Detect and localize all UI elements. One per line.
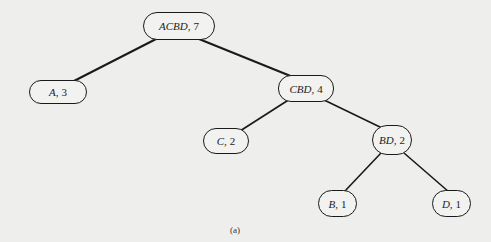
tree-node-d: D, 1 <box>432 190 471 217</box>
node-symbols: C <box>217 135 224 147</box>
figure-caption: (a) <box>230 225 240 235</box>
node-symbols: B <box>329 198 336 210</box>
edge-cbd-bd <box>322 99 382 128</box>
tree-node-cbd: CBD, 4 <box>278 75 334 102</box>
tree-node-bd: BD, 2 <box>372 125 412 155</box>
node-weight: 4 <box>317 83 323 95</box>
node-symbols: CBD <box>289 83 311 95</box>
node-weight: 1 <box>456 198 462 210</box>
node-separator: , <box>335 198 338 210</box>
tree-node-root: ACBD, 7 <box>143 12 215 40</box>
node-symbols: A <box>49 86 56 98</box>
tree-node-a: A, 3 <box>29 80 87 104</box>
edge-root-a <box>72 37 160 82</box>
node-separator: , <box>450 198 453 210</box>
edge-root-cbd <box>194 37 293 77</box>
node-separator: , <box>56 86 59 98</box>
tree-node-b: B, 1 <box>318 190 357 217</box>
node-weight: 7 <box>193 20 199 32</box>
node-separator: , <box>224 135 227 147</box>
node-symbols: D <box>442 198 450 210</box>
edge-bd-b <box>344 153 381 192</box>
node-separator: , <box>311 83 314 95</box>
tree-node-c: C, 2 <box>203 128 249 154</box>
node-symbols: ACBD <box>159 20 188 32</box>
tree-edges <box>0 0 491 242</box>
edge-bd-d <box>404 153 449 192</box>
edge-cbd-c <box>240 99 290 131</box>
node-weight: 1 <box>341 198 347 210</box>
node-separator: , <box>394 134 397 146</box>
node-weight: 2 <box>399 134 405 146</box>
node-weight: 3 <box>61 86 67 98</box>
node-separator: , <box>188 20 191 32</box>
node-weight: 2 <box>230 135 236 147</box>
node-symbols: BD <box>379 134 394 146</box>
